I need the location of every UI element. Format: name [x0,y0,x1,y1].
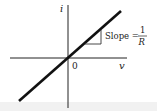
iv-line [19,11,121,101]
x-axis-label: v [119,60,125,71]
origin-label: 0 [72,61,78,71]
slope-denominator: R [138,37,146,47]
y-axis-label: i [60,3,63,14]
slope-label-prefix: Slope = [105,31,139,41]
slope-numerator: 1 [140,25,145,35]
iv-characteristic-diagram: i 0 v Slope = 1 R [0,0,157,111]
